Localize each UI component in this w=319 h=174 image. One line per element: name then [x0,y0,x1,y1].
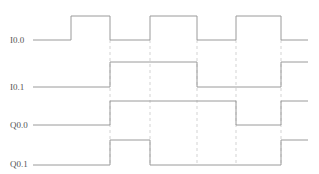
signal-waveform [33,16,308,40]
signal-label: I0.0 [10,35,25,45]
timing-diagram-canvas: I0.0I0.1Q0.0Q0.1 [0,0,319,174]
timing-diagram: I0.0I0.1Q0.0Q0.1 [0,0,319,174]
signal-waveform [33,101,308,125]
signal-label: I0.1 [10,82,24,92]
signal-label: Q0.0 [10,120,28,130]
signal-waveform [33,140,308,165]
signal-label: Q0.1 [10,159,28,169]
signal-waveform [33,62,308,87]
